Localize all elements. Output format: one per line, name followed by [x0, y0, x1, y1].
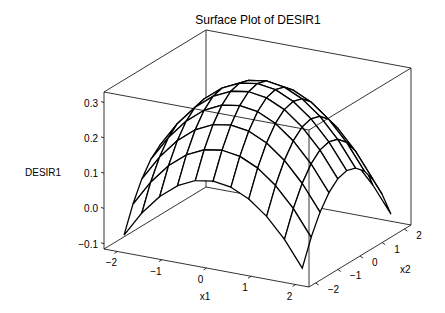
tick-label: 1	[242, 282, 248, 293]
tick-label: 0.1	[84, 168, 98, 179]
tick-label: 0.3	[84, 98, 98, 109]
tick-label: −2	[106, 257, 118, 268]
chart-title: Surface Plot of DESIR1	[195, 13, 321, 27]
tick-label: 2	[287, 291, 293, 302]
tick-label: 0	[372, 257, 378, 268]
y-axis-label: x2	[400, 264, 411, 275]
tick-label: 0.0	[84, 203, 98, 214]
tick-label: 1	[394, 244, 400, 255]
tick-label: −1	[350, 270, 362, 281]
surface-plot: Surface Plot of DESIR1 −2−1012−2−1012−0.…	[0, 0, 445, 313]
surface-mesh	[124, 80, 391, 268]
z-axis-label: DESIR1	[25, 167, 62, 178]
tick-label: −1	[150, 266, 162, 277]
tick-label: −2	[328, 284, 340, 295]
tick-label: −0.1	[78, 239, 98, 250]
tick-label: 0.2	[84, 133, 98, 144]
tick-label: 2	[416, 230, 422, 241]
tick-label: 0	[198, 274, 204, 285]
x-axis-label: x1	[200, 291, 211, 302]
